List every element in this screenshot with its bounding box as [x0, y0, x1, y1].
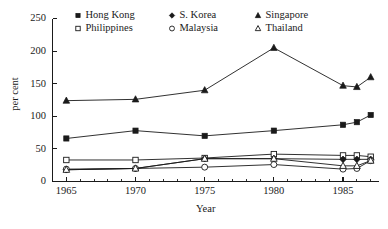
y-axis-title: per cent — [9, 77, 20, 111]
y-tick-label: 0 — [41, 175, 46, 186]
legend-label: Malaysia — [180, 22, 219, 33]
legend-label: Philippines — [86, 22, 133, 33]
data-point-marker — [340, 122, 345, 127]
y-tick-label: 50 — [36, 143, 47, 154]
data-point-marker — [271, 128, 276, 133]
data-point-marker — [133, 128, 138, 133]
chart-legend: Hong KongS. KoreaSingaporePhilippinesMal… — [76, 9, 309, 33]
y-tick-label: 150 — [30, 78, 46, 89]
y-tick-label: 100 — [30, 110, 46, 121]
data-point-marker — [354, 120, 359, 125]
series-line — [66, 115, 370, 138]
y-tick-label: 200 — [30, 45, 46, 56]
legend-item-s-korea[interactable]: S. Korea — [169, 9, 216, 20]
data-point-marker — [271, 44, 278, 50]
y-tick-label: 250 — [30, 12, 46, 23]
data-point-marker — [169, 13, 174, 18]
x-tick-label: 1970 — [125, 185, 146, 196]
data-point-marker — [64, 136, 69, 141]
x-tick-label: 1985 — [333, 185, 354, 196]
data-point-marker — [202, 164, 208, 170]
data-point-marker — [367, 74, 374, 80]
data-point-marker — [202, 133, 207, 138]
legend-item-philippines[interactable]: Philippines — [76, 22, 133, 33]
data-point-marker — [340, 82, 347, 88]
series-philippines — [64, 151, 374, 162]
legend-label: Thailand — [266, 22, 304, 33]
chart-canvas: 05010015020025019651970197519801985 Year… — [0, 0, 388, 229]
line-chart: 05010015020025019651970197519801985 Year… — [0, 0, 388, 229]
data-point-marker — [201, 87, 208, 93]
x-tick-label: 1965 — [56, 185, 77, 196]
data-point-marker — [133, 157, 138, 162]
data-point-marker — [76, 13, 80, 17]
legend-item-hong-kong[interactable]: Hong Kong — [76, 9, 136, 20]
series-hong-kong — [64, 112, 374, 141]
data-point-marker — [368, 112, 373, 117]
legend-item-thailand[interactable]: Thailand — [255, 22, 303, 33]
series-line — [66, 48, 370, 101]
data-point-marker — [63, 97, 70, 103]
x-axis-title: Year — [196, 203, 216, 214]
data-point-marker — [64, 157, 69, 162]
legend-item-malaysia[interactable]: Malaysia — [170, 22, 219, 33]
series-line — [66, 161, 370, 169]
data-point-marker — [255, 26, 260, 31]
legend-label: S. Korea — [180, 9, 217, 20]
data-point-marker — [170, 26, 175, 31]
legend-label: Singapore — [266, 9, 309, 20]
data-point-marker — [76, 26, 80, 30]
data-series — [63, 44, 374, 173]
data-point-marker — [271, 162, 277, 168]
series-singapore — [63, 44, 374, 103]
legend-label: Hong Kong — [86, 9, 136, 20]
x-tick-label: 1975 — [194, 185, 215, 196]
data-point-marker — [255, 13, 260, 18]
x-tick-label: 1980 — [263, 185, 284, 196]
legend-item-singapore[interactable]: Singapore — [255, 9, 308, 20]
